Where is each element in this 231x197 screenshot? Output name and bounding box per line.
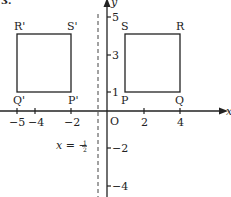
y-tick-label: −4 xyxy=(112,180,128,193)
vertex-label-r-prime: R' xyxy=(14,20,25,33)
square-pqrs: S R P Q xyxy=(121,20,185,107)
y-axis-label: y xyxy=(110,0,118,9)
vertex-label-p: P xyxy=(121,94,129,107)
vertex-label-s-prime: S' xyxy=(67,20,78,33)
x-tick-label: 4 xyxy=(177,116,184,129)
mirror-line-equation: x = − 1 2 xyxy=(56,139,88,153)
vertex-label-q-prime: Q' xyxy=(13,94,25,107)
x-axis-label: x xyxy=(226,105,231,118)
x-tick-label: −2 xyxy=(64,116,80,129)
x-tick-label: −5 xyxy=(9,116,25,129)
y-tick-label: 3 xyxy=(112,49,119,62)
coordinate-diagram: 3. x y O −5 −4 −2 2 4 5 3 1 −2 −4 xyxy=(0,0,231,197)
question-number: 3. xyxy=(1,0,11,6)
vertex-label-q: Q xyxy=(175,94,184,107)
y-tick-label: −2 xyxy=(112,142,128,155)
fraction-denominator: 2 xyxy=(83,146,87,153)
vertex-label-p-prime: P' xyxy=(68,94,78,107)
vertex-label-r: R xyxy=(176,20,185,33)
x-tick-label: −4 xyxy=(28,116,44,129)
fraction-numerator: 1 xyxy=(83,139,87,146)
square-image-pqrs: R' S' Q' P' xyxy=(13,20,78,107)
y-axis-arrow-icon xyxy=(104,0,111,7)
y-tick-label: 5 xyxy=(112,11,119,24)
origin-label: O xyxy=(110,115,119,128)
y-tick-label: 1 xyxy=(112,86,119,99)
vertex-label-s: S xyxy=(121,20,129,33)
x-tick-label: 2 xyxy=(141,116,148,129)
